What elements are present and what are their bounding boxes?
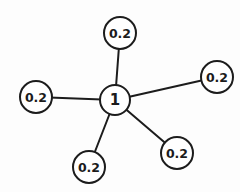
node-left-label: 0.2 <box>25 90 47 105</box>
node-bottom-right-label: 0.2 <box>166 146 188 161</box>
node-center: 1 <box>100 85 130 115</box>
star-graph-diagram: 10.20.20.20.20.2 <box>0 0 240 192</box>
node-left: 0.2 <box>20 81 52 113</box>
node-top: 0.2 <box>104 17 136 49</box>
node-bottom-left: 0.2 <box>73 151 105 183</box>
node-bottom-right: 0.2 <box>161 137 193 169</box>
node-right-label: 0.2 <box>206 70 228 85</box>
node-right: 0.2 <box>201 61 233 93</box>
node-center-label: 1 <box>110 91 120 109</box>
node-bottom-left-label: 0.2 <box>78 160 100 175</box>
node-top-label: 0.2 <box>109 26 131 41</box>
